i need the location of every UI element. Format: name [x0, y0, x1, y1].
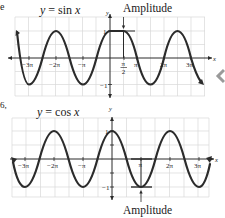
- cos-tick-m2pi: −2π: [47, 162, 58, 170]
- x-axis-right-arrow-icon: [208, 56, 212, 60]
- sin-x-axis-label: x: [212, 55, 216, 62]
- chevron-left-icon[interactable]: [218, 70, 224, 82]
- cos-graph: y = cos x Amplitude y x −3π −2π −π π 2π …: [10, 105, 218, 217]
- arrow-up-icon: [139, 190, 142, 194]
- sin-tick-pi: π: [134, 61, 138, 69]
- sin-graph: y = sin x Amplitude y x −3π −2π −π π 2 π…: [8, 2, 216, 98]
- sin-title: y = sin x: [39, 3, 81, 17]
- sin-tick-2pi: 2π: [160, 61, 168, 69]
- cos-title: y = cos x: [36, 105, 80, 119]
- cos-y-axis-label: y: [108, 105, 112, 112]
- sin-tick-m2pi: −2π: [49, 61, 60, 69]
- sin-tick-y1: 1: [103, 28, 107, 36]
- cos-amplitude-label: Amplitude: [123, 204, 172, 217]
- sin-y-axis-label: y: [105, 9, 109, 16]
- sin-tick-mpi: −π: [78, 61, 86, 69]
- cos-tick-mpi: −π: [78, 162, 86, 170]
- cos-grid: [12, 118, 209, 197]
- sin-tick-pi-half-den: 2: [122, 68, 126, 76]
- margin-mark-top: e: [0, 1, 5, 12]
- sin-tick-m3pi: −3π: [22, 61, 33, 69]
- cos-tick-ym1: −1: [102, 184, 110, 192]
- cos-tick-3pi: 3π: [194, 162, 202, 170]
- sin-tick-pi-half-num: π: [122, 60, 126, 68]
- y-axis-down-arrow-icon: [110, 196, 114, 200]
- x-axis-left-arrow-icon: [8, 56, 12, 60]
- figure: y = sin x Amplitude y x −3π −2π −π π 2 π…: [0, 0, 225, 218]
- cos-tick-2pi: 2π: [166, 162, 174, 170]
- cos-tick-y1: 1: [105, 128, 109, 136]
- cos-tick-pi: π: [139, 161, 143, 169]
- sin-tick-ym1: −1: [100, 82, 108, 90]
- arrow-down-icon: [122, 26, 125, 30]
- sin-tick-3pi: 3π: [186, 61, 194, 69]
- y-axis-up-arrow-icon: [110, 117, 114, 121]
- margin-mark-mid: 6,: [0, 100, 7, 110]
- sin-amplitude-label: Amplitude: [123, 2, 172, 15]
- cos-tick-m3pi: −3π: [18, 162, 29, 170]
- cos-x-axis-label: x: [214, 156, 218, 163]
